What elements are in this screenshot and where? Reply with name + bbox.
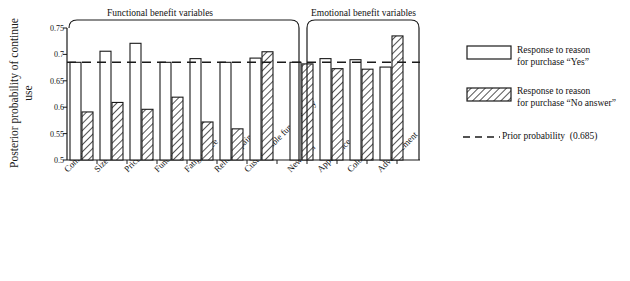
bar-customizable-functionality-yes — [250, 58, 261, 160]
bar-fatigue-free-no-answer — [202, 122, 213, 160]
figure-container: Posterior probability of continue use 0.… — [0, 0, 630, 281]
legend-swatch-open-bar — [467, 46, 511, 59]
bar-function-no-answer — [172, 97, 183, 160]
bar-color-yes — [350, 60, 361, 160]
bars-layer — [70, 36, 403, 160]
bar-price-no-answer — [142, 109, 153, 160]
chart-svg — [0, 0, 630, 281]
bar-advertisement-yes — [380, 67, 391, 160]
bar-comfort-yes — [70, 62, 81, 160]
bar-relief-of-pain-no-answer — [232, 129, 243, 160]
bar-appearance-no-answer — [332, 69, 343, 160]
bar-advertisement-no-answer — [392, 36, 403, 160]
bar-appearance-yes — [320, 59, 331, 160]
bar-function-yes — [160, 62, 171, 160]
bar-size-yes — [100, 51, 111, 160]
bar-customizable-functionality-no-answer — [262, 52, 273, 160]
legend-swatch-hatched-bar — [467, 88, 511, 101]
bar-relief-of-pain-yes — [220, 62, 231, 160]
bar-comfort-no-answer — [82, 112, 93, 160]
bar-color-no-answer — [362, 69, 373, 160]
bar-fatigue-free-yes — [190, 59, 201, 160]
bar-size-no-answer — [112, 102, 123, 160]
bar-price-yes — [130, 43, 141, 160]
